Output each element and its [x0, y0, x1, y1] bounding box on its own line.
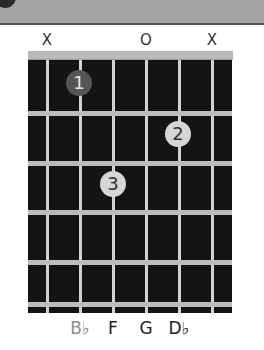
string-1	[46, 59, 49, 313]
string-4	[145, 59, 148, 313]
muted-string-marker: X	[202, 32, 222, 48]
nut	[28, 51, 233, 60]
note-label: D♭	[164, 318, 194, 338]
finger-dot-root: 1	[66, 70, 92, 96]
note-label: G	[131, 318, 161, 338]
header-bar	[0, 0, 264, 25]
open-string-marker: O	[136, 32, 156, 48]
string-6	[211, 59, 214, 313]
fretboard	[28, 51, 232, 313]
finger-dot: 2	[165, 121, 191, 147]
muted-string-marker: X	[37, 32, 57, 48]
fret-1	[28, 111, 232, 116]
fret-3	[28, 210, 232, 215]
note-label: F	[98, 318, 128, 338]
fret-5	[28, 302, 232, 307]
finger-dot: 3	[100, 171, 126, 197]
string-5	[178, 59, 181, 313]
fret-4	[28, 260, 232, 265]
fret-2	[28, 161, 232, 166]
note-label-root: B♭	[65, 318, 95, 338]
header-badge-icon	[0, 0, 16, 8]
string-2	[79, 59, 82, 313]
